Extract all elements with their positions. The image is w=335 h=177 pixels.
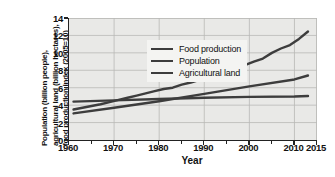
legend-line-swatch-population — [151, 60, 173, 62]
x-axis-minor-tick-mark — [91, 141, 92, 144]
y-axis-tick-mark — [64, 17, 68, 18]
x-axis-tick-mark — [113, 141, 114, 145]
y-axis-tick-mark — [64, 139, 68, 140]
legend-item-agricultural-land: Agricultural land — [151, 67, 241, 79]
x-axis-tick-mark — [248, 141, 249, 145]
legend-item-population: Population — [151, 55, 241, 67]
y-tick-label: 8 — [47, 65, 63, 76]
y-axis-tick-mark — [64, 70, 68, 71]
y-tick-label: 10 — [47, 47, 63, 58]
y-axis-label-container: Population (billion people), agricultura… — [0, 0, 46, 150]
y-axis-tick-mark — [64, 122, 68, 123]
legend-line-swatch-food-production — [151, 48, 173, 50]
y-tick-label: 14 — [47, 13, 63, 24]
x-axis-tick-mark — [203, 141, 204, 145]
chart-figure: Population (billion people), agricultura… — [0, 0, 335, 177]
x-axis-tick-mark — [293, 141, 294, 145]
y-tick-label: 4 — [47, 100, 63, 111]
legend-item-food-production: Food production — [151, 43, 241, 55]
y-axis-tick-mark — [64, 105, 68, 106]
legend-label-food-production: Food production — [179, 44, 241, 54]
x-axis-label: Year — [68, 155, 316, 166]
x-axis-minor-tick-mark — [271, 141, 272, 144]
x-axis-minor-tick-mark — [226, 141, 227, 144]
y-tick-label: 12 — [47, 30, 63, 41]
x-axis-minor-tick-mark — [136, 141, 137, 144]
x-axis-tick-mark — [158, 141, 159, 145]
x-axis-tick-mark — [316, 141, 317, 145]
plot-area: Food production Population Agricultural … — [68, 18, 317, 141]
x-axis-tick-mark — [68, 141, 69, 145]
y-tick-label: 2 — [47, 117, 63, 128]
y-axis-tick-mark — [64, 87, 68, 88]
legend-label-agricultural-land: Agricultural land — [179, 68, 240, 78]
x-axis-tick-labels: 1960197019801990200020102015 — [0, 142, 335, 156]
chart-legend: Food production Population Agricultural … — [147, 40, 247, 82]
legend-label-population: Population — [179, 56, 220, 66]
y-axis-tick-mark — [64, 35, 68, 36]
y-axis-tick-mark — [64, 52, 68, 53]
y-tick-label: 6 — [47, 82, 63, 93]
legend-line-swatch-agricultural-land — [151, 72, 173, 74]
x-axis-minor-tick-mark — [181, 141, 182, 144]
